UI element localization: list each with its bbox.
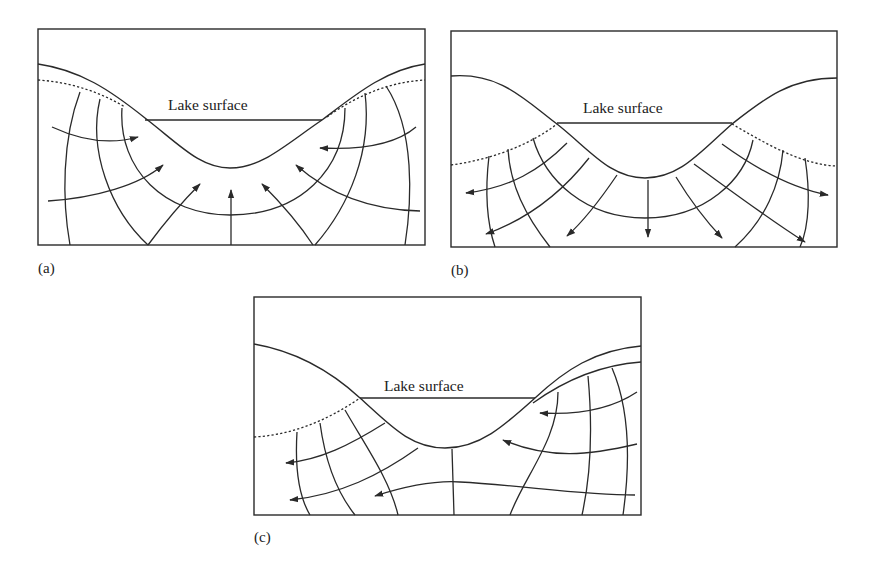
panel-b-caption: (b)	[451, 262, 469, 279]
panel-a-lake-label: Lake surface	[168, 96, 248, 113]
panel-b: Lake surface (b)	[451, 31, 837, 279]
panel-b-frame	[451, 31, 837, 247]
panel-c-water-table-right	[533, 362, 641, 403]
panel-c-equipotential	[296, 432, 310, 515]
panel-c-flow-arrow	[375, 482, 635, 496]
panel-c-lake-label: Lake surface	[384, 377, 464, 394]
panel-c-water-table	[254, 398, 360, 437]
panel-c-flow-arrow	[286, 423, 385, 463]
panel-c-equipotential	[510, 392, 558, 515]
panel-c-land-surface	[254, 344, 641, 448]
panel-c-flow-arrow	[290, 448, 418, 500]
panel-b-flow-arrow	[567, 175, 617, 236]
panel-b-equipotential	[800, 158, 808, 247]
panel-c-equipotential	[582, 376, 590, 515]
panel-c-equipotential	[345, 410, 398, 515]
panel-b-flow-arrow	[676, 177, 722, 238]
panel-b-lake-label: Lake surface	[583, 99, 663, 116]
panel-a-caption: (a)	[38, 260, 55, 277]
panel-a-flow-arrow	[296, 165, 420, 211]
panel-a-flow-arrow	[52, 127, 138, 141]
panel-c-equipotential	[320, 423, 355, 515]
panel-b-flow-arrow	[694, 164, 805, 242]
panel-b-flow-arrow	[466, 143, 567, 193]
panel-a-equipotential	[386, 86, 410, 245]
panel-a-flow-arrow	[148, 184, 200, 245]
panel-a-flow-arrow	[262, 184, 313, 245]
panel-a: Lake surface (a)	[38, 29, 425, 277]
panel-a-equipotential	[315, 93, 366, 245]
panel-c-flow-arrow	[503, 440, 637, 454]
panel-c-caption: (c)	[254, 529, 271, 546]
panel-c: Lake surface (c)	[254, 297, 641, 546]
panel-a-equipotential	[65, 92, 80, 245]
panel-c-equipotential	[612, 368, 627, 515]
panel-a-flow-arrow	[320, 127, 416, 148]
lake-groundwater-figure: Lake surface (a) Lake surface (b)	[0, 0, 873, 565]
panel-a-equipotential	[122, 108, 345, 215]
